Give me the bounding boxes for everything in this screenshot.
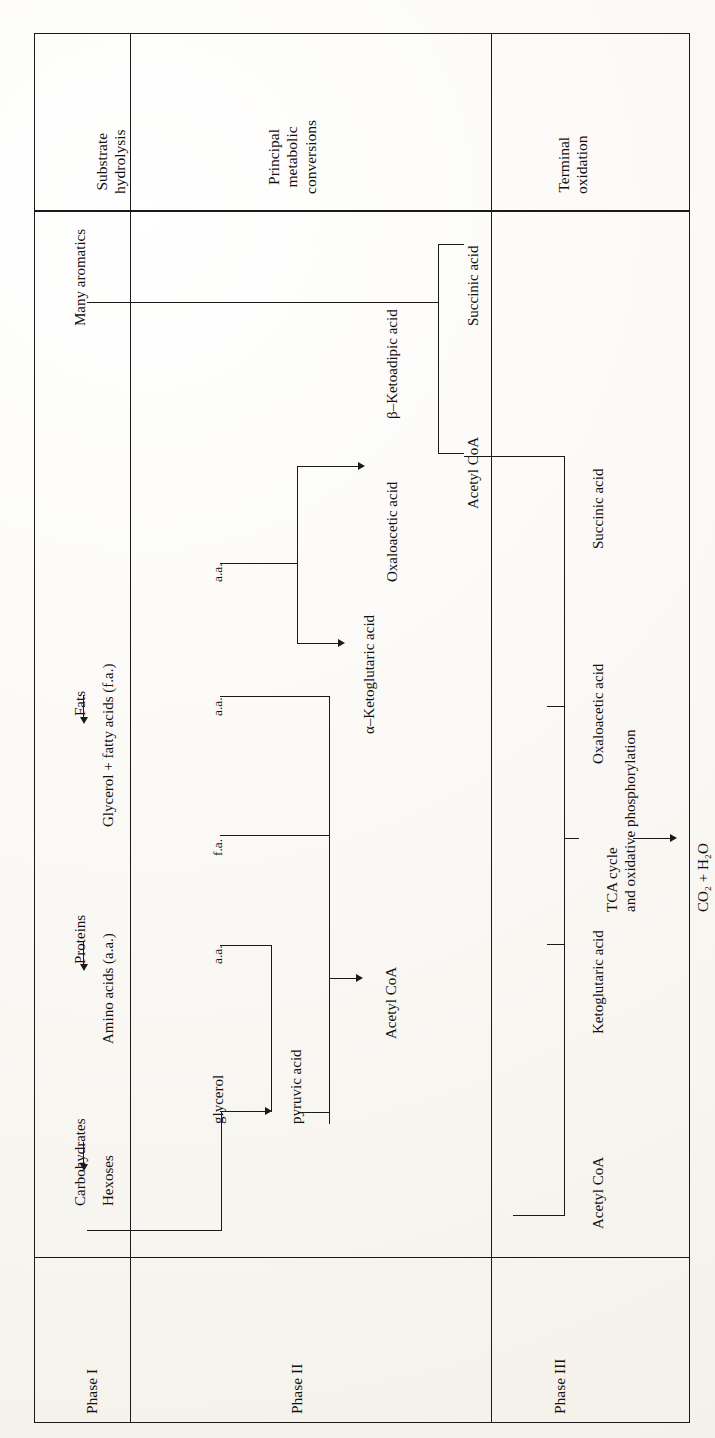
header-col2: Principal metabolic conversions [265,120,320,194]
link-to-ketoglutaric-head [338,639,345,647]
node-fa: f.a. [210,839,226,856]
link-to-oxaloacetic-shaft [297,466,359,467]
header-col3-line1: Terminal [555,137,572,193]
arrow-glycerol-shaft [220,1111,265,1112]
arrow-proteins-head [80,964,88,971]
arrow-carbs-shaft [83,1142,84,1166]
link-hexoses-stem [87,1230,222,1231]
node-tca-line2: and oxidative phosphorylation [622,730,638,912]
node-acetyl-coa-main: Acetyl CoA [383,967,401,1039]
node-aa-lower: a.a. [210,945,226,964]
arrow-fats-shaft [83,695,84,719]
link-hexoses-riser [221,1111,222,1231]
node-glycerol: glycerol [210,1075,228,1124]
header-col2-line2: metabolic [283,126,300,187]
header-col2-line3: conversions [302,120,319,194]
link-aa-mid [220,696,330,697]
tick-ketoglutaric [547,944,564,945]
link-to-oxaloacetic-head [358,462,365,470]
link-aa-upper-stem [220,563,298,564]
arrow-acetylcoa-head [356,974,363,982]
arrow-co2-shaft [633,838,671,839]
phase3-bus-line [564,456,565,1216]
node-co2-water: CO₂ + H₂O [695,843,713,912]
node-tca-line1: TCA cycle [604,847,620,912]
tick-oxaloacetic [547,706,564,707]
phase-label-2: Phase II [288,1364,306,1414]
link-pyruvate-to-trunk [298,1112,330,1113]
link-aa-lower [220,945,272,946]
column-divider-1 [130,34,131,1422]
arrow-fats-head [80,717,88,724]
node-hexoses: Hexoses [100,1155,118,1206]
header-col1-line1: Substrate [93,133,110,191]
arrow-acetylcoa-shaft [329,978,357,979]
node-tca-cycle: TCA cycle and oxidative phosphorylation [604,730,639,912]
node-carbohydrates: Carbohydrates [72,1119,90,1206]
link-acetylcoa-to-bus [513,1215,564,1216]
node-acetyl-coa-top: Acetyl CoA [465,437,483,509]
header-col3: Terminal oxidation [555,135,592,194]
node-acetyl-coa-p3: Acetyl CoA [590,1157,608,1229]
link-aromatics-to-ketoadipic [87,302,409,303]
tick-tca [564,838,579,839]
node-succinic-acid-p2: Succinic acid [465,246,483,326]
header-col3-line2: oxidation [573,135,590,194]
acetyl-coa-trunk [329,696,330,1124]
link-aa-upper-fork [297,466,298,644]
arrow-proteins-shaft [83,942,84,966]
node-succinic-acid-p3: Succinic acid [590,469,608,549]
node-glycerol-fatty-acids: Glycerol + fatty acids (f.a.) [100,664,118,827]
header-col1: Substrate hydrolysis [93,129,130,194]
header-col2-line1: Principal [265,129,282,185]
node-aa-mid: a.a. [210,697,226,716]
link-aa-lower-down [271,945,272,1112]
column-divider-2 [491,34,492,1422]
figure-frame: Substrate hydrolysis Principal metabolic… [34,33,690,1423]
link-fa [220,835,330,836]
node-aa-upper: a.a. [210,563,226,582]
node-proteins: Proteins [72,915,90,964]
node-alpha-ketoglutaric-acid: α–Ketoglutaric acid [361,615,379,734]
footer-divider [35,1257,689,1258]
link-to-ketoglutaric-shaft [297,643,339,644]
showthrough-text [150,0,570,18]
phase-label-3: Phase III [551,1358,569,1414]
link-succinic-to-bus [464,456,564,457]
link-ketoadipic-stem [409,302,439,303]
link-to-succinic [438,244,464,245]
node-ketoglutaric-acid-p3: Ketoglutaric acid [590,930,608,1034]
phase-label-1: Phase I [83,1369,101,1414]
arrow-co2-head [670,834,677,842]
node-fats: Fats [72,691,90,716]
node-many-aromatics: Many aromatics [72,229,90,326]
header-divider [35,210,689,212]
arrow-glycerol-head [265,1107,272,1115]
node-ketoadipic-acid: β–Ketoadipic acid [384,309,402,419]
node-amino-acids: Amino acids (a.a.) [100,933,118,1044]
node-co2-water-text: CO₂ + H₂O [695,843,711,912]
link-ketoadipic-fork [438,244,439,454]
node-oxaloacetic-acid-p2: Oxaloacetic acid [384,482,402,582]
header-col1-line2: hydrolysis [111,129,128,194]
link-to-acetylcoa-top [438,453,464,454]
arrow-carbs-head [80,1164,88,1171]
